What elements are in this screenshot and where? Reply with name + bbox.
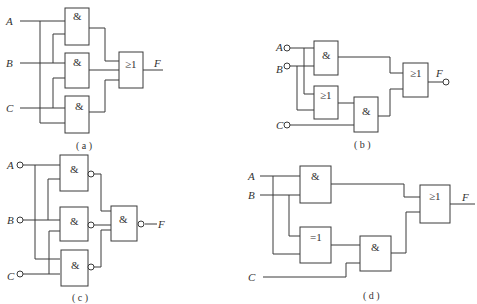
- input-terminal: [284, 63, 290, 69]
- gate-symbol: &: [70, 163, 79, 175]
- output-terminal: [443, 79, 449, 85]
- gate-symbol: &: [73, 10, 82, 22]
- wire-a: [260, 176, 300, 254]
- circuit-b: A B C & ≥1 & ≥1 F ( b ): [275, 41, 449, 151]
- wire-gate-outputs: [89, 28, 119, 112]
- circuit-c: A B C & & & & F ( c ): [6, 155, 165, 304]
- caption-a: ( a ): [76, 140, 92, 152]
- inverter-bubble: [88, 171, 94, 177]
- input-label-b: B: [7, 214, 14, 226]
- input-label-a: A: [6, 159, 14, 171]
- gate-symbol: &: [322, 49, 331, 61]
- caption-b: ( b ): [354, 139, 371, 151]
- wire-b: [290, 66, 314, 110]
- input-terminal: [284, 45, 290, 51]
- input-label-b: B: [248, 189, 255, 201]
- wire-b: [20, 34, 65, 63]
- wire-b: [260, 195, 300, 236]
- circuit-a: A B C & & & ≥1 F ( a ): [5, 8, 163, 152]
- circuit-d: A B C & =1 & ≥1 F ( d ): [247, 166, 475, 302]
- input-terminal: [17, 162, 23, 168]
- input-label-c: C: [248, 271, 256, 283]
- input-label-a: A: [247, 170, 255, 182]
- wire-gate-outputs: [93, 174, 111, 267]
- input-label-a: A: [5, 15, 13, 27]
- gate-symbol: &: [70, 215, 79, 227]
- input-label-c: C: [7, 270, 15, 282]
- input-label-b: B: [6, 57, 13, 69]
- gate-symbol: ≥1: [429, 190, 441, 202]
- wire-c: [20, 78, 65, 108]
- gate-symbol: &: [75, 100, 84, 112]
- wire-b: [23, 179, 60, 220]
- wire-a: [290, 48, 314, 94]
- gate-symbol: &: [362, 105, 371, 117]
- output-label-f: F: [461, 191, 469, 203]
- gate-symbol: &: [73, 56, 82, 68]
- inverter-bubble: [88, 264, 94, 270]
- input-terminal: [17, 217, 23, 223]
- input-label-b: B: [276, 63, 283, 75]
- gate-symbol: ≥1: [410, 67, 422, 79]
- gate-symbol: ≥1: [320, 89, 332, 101]
- caption-c: ( c ): [72, 292, 88, 304]
- logic-circuits-figure: A B C & & & ≥1 F ( a ) A B C: [0, 0, 477, 304]
- input-label-c: C: [6, 102, 14, 114]
- gate-symbol: &: [311, 170, 320, 182]
- input-label-a: A: [275, 41, 283, 53]
- output-label-f: F: [435, 67, 443, 79]
- wire-c: [263, 263, 360, 277]
- output-label-f: F: [157, 218, 165, 230]
- gate-symbol: &: [119, 213, 128, 225]
- inverter-bubble: [88, 222, 94, 228]
- caption-d: ( d ): [363, 290, 380, 302]
- input-terminal: [284, 122, 290, 128]
- gate-symbol: ≥1: [125, 58, 137, 70]
- input-label-c: C: [276, 119, 284, 131]
- gate-symbol: =1: [310, 231, 322, 243]
- inverter-bubble: [138, 221, 144, 227]
- wire-c: [23, 231, 60, 274]
- input-terminal: [17, 271, 23, 277]
- output-label-f: F: [153, 57, 161, 69]
- gate-symbol: &: [371, 241, 380, 253]
- gate-symbol: &: [71, 259, 80, 271]
